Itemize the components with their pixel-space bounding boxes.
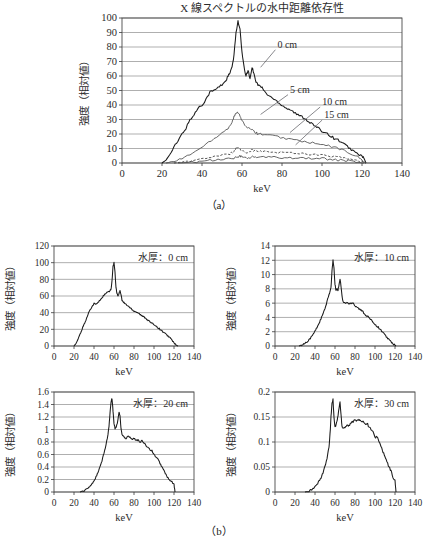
svg-text:140: 140 [394,168,410,179]
svg-text:120: 120 [35,241,50,251]
svg-text:40: 40 [40,308,50,318]
svg-text:強度（相対値）: 強度（相対値） [4,407,16,477]
svg-text:40: 40 [89,498,99,508]
svg-text:0.8: 0.8 [37,437,49,447]
svg-text:強度（相対値）: 強度（相対値） [225,261,237,331]
svg-text:60: 60 [237,168,248,179]
svg-text:60: 60 [330,498,340,508]
svg-text:100: 100 [314,168,330,179]
svg-text:0.05: 0.05 [253,462,270,472]
svg-text:2: 2 [265,327,270,337]
svg-text:0: 0 [273,498,278,508]
svg-text:100: 100 [147,352,162,362]
svg-text:keV: keV [336,366,354,377]
svg-text:100: 100 [368,352,383,362]
svg-text:120: 120 [167,352,182,362]
svg-text:20: 20 [290,498,300,508]
svg-text:40: 40 [310,352,320,362]
svg-text:40: 40 [89,352,99,362]
chart-panel-b-10cm: 02468101214020406080100120140keV強度（相対値）水… [219,232,438,380]
svg-text:100: 100 [35,258,50,268]
figure-x-ray-spectrum: 0102030405060708090100020406080100120140… [0,0,438,551]
svg-text:120: 120 [354,168,370,179]
svg-text:20: 20 [69,498,79,508]
svg-text:10: 10 [261,270,271,280]
svg-text:60: 60 [109,498,119,508]
svg-text:20: 20 [157,168,168,179]
svg-text:1.4: 1.4 [37,400,49,410]
svg-text:20: 20 [40,325,50,335]
svg-text:20: 20 [69,352,79,362]
svg-text:60: 60 [40,291,50,301]
svg-text:60: 60 [109,352,119,362]
svg-text:80: 80 [129,498,139,508]
svg-text:20: 20 [290,352,300,362]
svg-text:6: 6 [265,299,270,309]
svg-text:60: 60 [330,352,340,362]
svg-text:0.2: 0.2 [37,475,49,485]
svg-text:100: 100 [101,12,117,23]
svg-text:120: 120 [167,498,182,508]
svg-text:0.2: 0.2 [258,387,270,397]
svg-text:80: 80 [40,275,50,285]
svg-text:強度（相対値）: 強度（相対値） [78,56,90,126]
svg-text:80: 80 [277,168,288,179]
svg-text:0: 0 [265,487,270,497]
chart-panel-b-0cm: 020406080100120020406080100120140keV強度（相… [0,232,219,380]
svg-text:40: 40 [310,498,320,508]
svg-text:強度（相対値）: 強度（相対値） [4,261,16,331]
svg-text:水厚：20 cm: 水厚：20 cm [133,398,188,409]
svg-text:4: 4 [265,313,270,323]
caption-b: （b） [0,522,438,538]
svg-text:10 cm: 10 cm [322,96,347,107]
svg-text:40: 40 [197,168,208,179]
svg-text:10: 10 [107,143,118,154]
svg-text:12: 12 [261,256,271,266]
svg-text:140: 140 [408,352,423,362]
svg-text:水厚：10 cm: 水厚：10 cm [354,252,409,263]
svg-text:50: 50 [107,85,118,96]
svg-text:0.1: 0.1 [258,437,270,447]
svg-text:keV: keV [253,183,271,194]
svg-text:0.6: 0.6 [37,450,49,460]
svg-text:30: 30 [107,114,118,125]
svg-text:80: 80 [350,352,360,362]
chart-panel-a: 0102030405060708090100020406080100120140… [0,0,438,205]
svg-text:0: 0 [273,352,278,362]
svg-text:0: 0 [265,341,270,351]
svg-text:0: 0 [52,352,57,362]
svg-text:80: 80 [129,352,139,362]
svg-text:1.6: 1.6 [37,387,49,397]
svg-text:0: 0 [44,341,49,351]
chart-panel-b-20cm: 00.20.40.60.811.21.41.602040608010012014… [0,378,219,526]
svg-text:60: 60 [107,70,118,81]
caption-a: （a） [0,196,438,212]
svg-text:0: 0 [44,487,49,497]
svg-text:強度（相対値）: 強度（相対値） [225,407,237,477]
svg-text:14: 14 [261,241,271,251]
svg-text:140: 140 [187,352,202,362]
svg-text:80: 80 [107,41,118,52]
svg-text:0: 0 [119,168,124,179]
svg-text:keV: keV [115,366,133,377]
svg-text:120: 120 [388,498,403,508]
svg-text:X 線スペクトルの水中距離依存性: X 線スペクトルの水中距離依存性 [180,1,344,14]
svg-text:5 cm: 5 cm [290,84,310,95]
svg-text:0.4: 0.4 [37,462,49,472]
svg-text:0: 0 [52,498,57,508]
svg-text:1: 1 [44,425,49,435]
svg-text:40: 40 [107,99,118,110]
chart-panel-b-30cm: 00.050.10.150.2020406080100120140keV強度（相… [219,378,438,526]
svg-text:0.15: 0.15 [253,412,270,422]
svg-text:120: 120 [388,352,403,362]
svg-text:100: 100 [147,498,162,508]
svg-text:15 cm: 15 cm [324,109,349,120]
svg-text:100: 100 [368,498,383,508]
svg-text:140: 140 [187,498,202,508]
svg-text:1.2: 1.2 [37,412,49,422]
svg-text:水厚：0 cm: 水厚：0 cm [138,252,188,263]
svg-text:8: 8 [265,284,270,294]
svg-text:水厚：30 cm: 水厚：30 cm [354,398,409,409]
svg-text:0: 0 [112,157,117,168]
svg-text:80: 80 [350,498,360,508]
